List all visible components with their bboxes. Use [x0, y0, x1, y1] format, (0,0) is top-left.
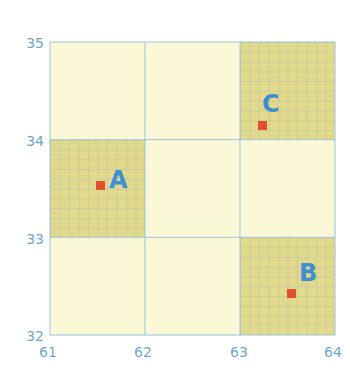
x-tick-62: 62: [134, 344, 152, 360]
y-tick-32: 32: [26, 328, 44, 344]
y-tick-33: 33: [26, 231, 44, 247]
x-tick-61: 61: [39, 344, 57, 360]
grid-map-chart: 35 34 33 32 61 62 63 64 A C B: [0, 0, 350, 383]
point-label-a: A: [109, 166, 128, 194]
point-marker-c: [258, 121, 267, 130]
highlight-cell-c: [240, 42, 335, 140]
point-label-b: B: [299, 259, 317, 287]
x-tick-63: 63: [230, 344, 248, 360]
y-tick-34: 34: [26, 133, 44, 149]
y-tick-35: 35: [26, 35, 44, 51]
point-label-c: C: [262, 90, 280, 118]
point-marker-b: [287, 289, 296, 298]
highlight-cell-b: [240, 237, 335, 335]
point-marker-a: [96, 181, 105, 190]
x-tick-64: 64: [324, 344, 342, 360]
